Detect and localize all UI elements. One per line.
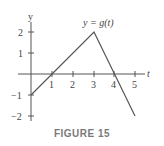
y-tick-label: −2 xyxy=(11,111,22,122)
y-tick-label: −1 xyxy=(11,90,22,101)
x-tick-label: 5 xyxy=(132,79,137,90)
x-tick-label: 1 xyxy=(49,79,54,90)
y-axis-label: y xyxy=(28,11,33,22)
curve-label: y = g(t) xyxy=(82,17,114,29)
x-tick-label: 2 xyxy=(70,79,75,90)
x-tick-label: 4 xyxy=(111,79,116,90)
y-tick-label: 2 xyxy=(18,27,23,38)
figure-caption: FIGURE 15 xyxy=(0,128,164,139)
x-tick-label: 3 xyxy=(91,79,96,90)
graph: y t 1 2 3 4 5 2 1 −1 −2 y = g(t) xyxy=(0,0,164,146)
x-axis-label: t xyxy=(147,68,150,79)
y-tick-label: 1 xyxy=(18,48,23,59)
